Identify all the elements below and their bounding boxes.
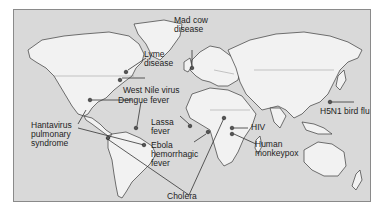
marker-west-nile [118,78,122,82]
label-monkeypox: Human monkeypox [255,140,298,158]
label-ebola: Ebola hemorrhagic fever [151,141,198,168]
marker-hiv [230,126,234,130]
label-mad-cow: Mad cow disease [174,16,208,34]
world-map: Mad cow disease Lyme disease West Nile v… [13,9,371,202]
label-west-nile: West Nile virus [123,86,180,95]
label-h5n1: H5N1 bird flu [320,107,370,116]
label-dengue: Dengue fever [118,96,169,105]
marker-lyme [124,70,128,74]
marker-cholera-af [222,116,226,120]
new-zealand [352,170,362,190]
marker-monkeypox [230,132,234,136]
leader-dengue-2 [137,102,141,126]
australia [304,142,346,176]
marker-hanta [106,136,110,140]
leader-lassa [180,116,189,124]
marker-mad-cow [190,66,194,70]
india [270,108,286,128]
label-hiv: HIV [251,123,265,132]
map-canvas [14,10,371,202]
label-lyme: Lyme disease [144,50,173,68]
marker-dengue-2 [134,126,138,130]
marker-lassa [188,124,192,128]
marker-dengue-1 [88,98,92,102]
marker-cholera-sa [142,143,146,147]
label-hantavirus: Hantavirus pulmonary syndrome [31,121,72,148]
marker-ebola [206,130,210,134]
southeast-asia [302,122,332,134]
marker-h5n1 [328,100,332,104]
label-lassa: Lassa fever [151,118,174,136]
label-cholera: Cholera [167,192,197,201]
